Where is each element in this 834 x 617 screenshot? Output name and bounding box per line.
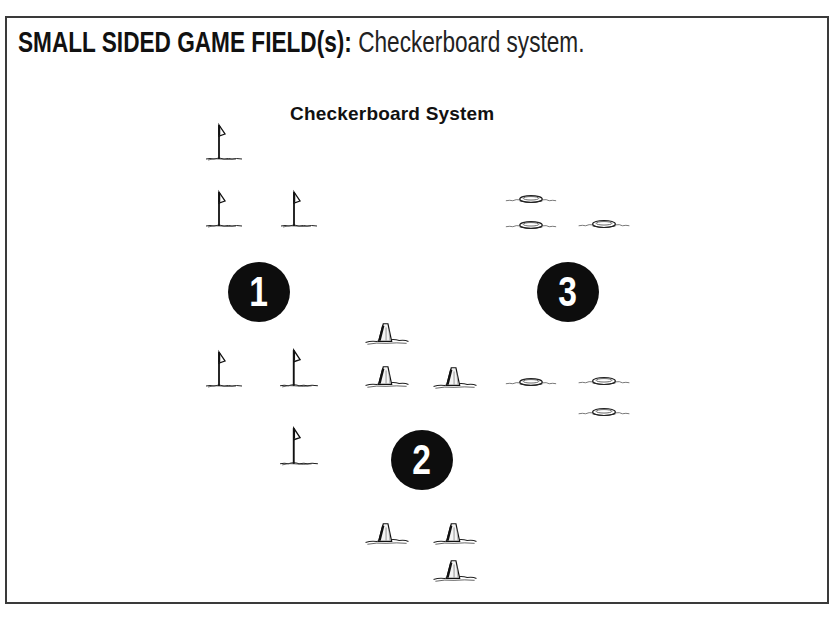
cone-icon — [362, 520, 412, 548]
cone-icon — [430, 557, 480, 585]
disc-cone-icon — [505, 375, 557, 389]
flag-icon — [277, 425, 321, 467]
cone-icon — [430, 364, 480, 392]
page-title: SMALL SIDED GAME FIELD(s): Checkerboard … — [18, 24, 584, 60]
disc-cone-icon — [575, 405, 633, 419]
cone-icon — [430, 520, 480, 548]
flag-icon — [204, 348, 244, 390]
title-bold: SMALL SIDED GAME FIELD(s): — [18, 26, 352, 58]
disc-cone-icon — [505, 192, 557, 206]
disc-cone-icon — [505, 218, 557, 232]
diagram-subtitle: Checkerboard System — [290, 103, 494, 125]
title-rest: Checkerboard system. — [352, 26, 585, 58]
flag-icon — [204, 122, 244, 162]
cone-icon — [362, 363, 412, 391]
field-number: 1 — [250, 262, 269, 322]
field-number: 3 — [559, 262, 578, 322]
flag-icon — [204, 189, 244, 229]
field-badge-1: 1 — [228, 262, 290, 322]
field-number: 2 — [413, 430, 432, 490]
disc-cone-icon — [575, 374, 633, 388]
field-badge-3: 3 — [537, 262, 599, 322]
flag-icon — [277, 189, 321, 229]
flag-icon — [277, 347, 321, 389]
field-badge-2: 2 — [391, 430, 453, 490]
cone-icon — [362, 320, 412, 348]
disc-cone-icon — [575, 217, 633, 231]
